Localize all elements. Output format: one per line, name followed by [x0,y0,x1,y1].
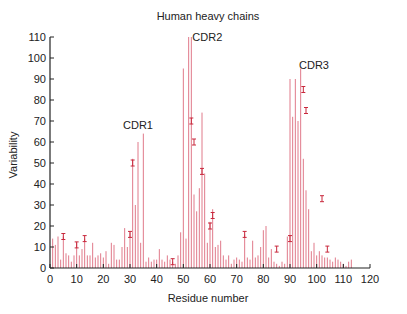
y-tick-label: 40 [34,178,46,190]
x-tick-label: 0 [47,273,53,285]
x-axis-label: Residue number [168,292,249,304]
annotations-group: CDR1CDR2CDR3 [123,31,329,131]
y-tick-label: 70 [34,115,46,127]
x-tick-label: 90 [284,273,296,285]
variability-chart: Human heavy chains 010203040506070809010… [0,0,407,314]
x-tick-label: 100 [307,273,325,285]
y-tick-label: 100 [28,52,46,64]
y-tick-label: 50 [34,157,46,169]
chart-title: Human heavy chains [157,10,260,22]
y-tick-label: 90 [34,73,46,85]
x-tick-label: 50 [177,273,189,285]
x-tick-label: 20 [97,273,109,285]
y-tick-label: 80 [34,94,46,106]
x-tick-label: 110 [335,273,353,285]
cdr-annotation: CDR2 [192,31,222,43]
y-tick-label: 20 [34,220,46,232]
x-tick-label: 40 [151,273,163,285]
error-bars-group [61,87,329,265]
cdr-annotation: CDR1 [123,119,153,131]
x-tick-label: 30 [124,273,136,285]
x-tick-label: 10 [71,273,83,285]
x-tick-label: 120 [361,273,379,285]
y-tick-label: 0 [40,262,46,274]
x-tick-label: 80 [257,273,269,285]
x-tick-label: 70 [231,273,243,285]
y-axis-label: Variability [7,131,19,178]
y-tick-label: 10 [34,241,46,253]
y-tick-label: 30 [34,199,46,211]
y-tick-label: 110 [28,31,46,43]
y-tick-label: 60 [34,136,46,148]
bars-group [53,37,352,268]
x-tick-label: 60 [204,273,216,285]
cdr-annotation: CDR3 [299,59,329,71]
